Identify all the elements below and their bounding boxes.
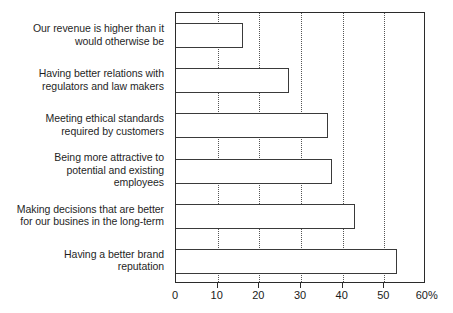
bar [176, 113, 328, 138]
category-label-line: potential and existing [0, 164, 164, 177]
category-label: Meeting ethical standardsrequired by cus… [0, 112, 164, 137]
x-tick-mark [342, 283, 343, 288]
bar [176, 159, 332, 184]
category-label-line: would otherwise be [0, 35, 164, 48]
x-tick-mark [300, 283, 301, 288]
bar [176, 204, 355, 229]
bar [176, 68, 289, 93]
category-label: Making decisions that are betterfor our … [0, 203, 164, 228]
plot-area [175, 12, 425, 283]
bar-chart: Our revenue is higher than itwould other… [0, 0, 453, 313]
x-tick-label: 40 [336, 289, 348, 302]
category-label-line: Having better relations with [0, 67, 164, 80]
x-axis: 0102030405060% [175, 283, 425, 311]
x-tick-mark [258, 283, 259, 288]
x-tick-label: 20 [252, 289, 264, 302]
category-label-line: reputation [0, 260, 164, 273]
bar [176, 249, 397, 274]
category-label-line: Our revenue is higher than it [0, 22, 164, 35]
category-label-line: Meeting ethical standards [0, 112, 164, 125]
category-label-line: Having a better brand [0, 248, 164, 261]
category-label-line: required by customers [0, 125, 164, 138]
x-tick-mark [383, 283, 384, 288]
category-label-line: Being more attractive to [0, 151, 164, 164]
x-tick-label: 60% [416, 289, 438, 302]
category-label-line: employees [0, 176, 164, 189]
bar [176, 23, 243, 48]
category-label: Having better relations withregulators a… [0, 67, 164, 92]
bars [176, 13, 424, 282]
x-tick-mark [217, 283, 218, 288]
x-tick-label: 10 [211, 289, 223, 302]
x-tick-label: 0 [172, 289, 178, 302]
category-label: Having a better brandreputation [0, 248, 164, 273]
category-label: Our revenue is higher than itwould other… [0, 22, 164, 47]
category-label-line: regulators and law makers [0, 80, 164, 93]
x-tick-label: 50 [377, 289, 389, 302]
x-tick-label: 30 [294, 289, 306, 302]
category-label-line: Making decisions that are better [0, 203, 164, 216]
category-label: Being more attractive topotential and ex… [0, 151, 164, 189]
category-label-line: for our busines in the long-term [0, 215, 164, 228]
category-labels: Our revenue is higher than itwould other… [0, 12, 170, 283]
